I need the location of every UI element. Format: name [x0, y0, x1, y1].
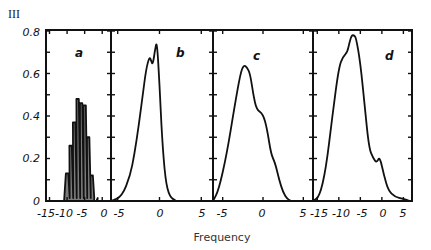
curve-a [64, 99, 98, 201]
curve-c [213, 66, 291, 201]
x-tick-c-n5: -5 [217, 207, 228, 220]
panel-label-a: a [75, 46, 83, 60]
figure-label: III [8, 7, 20, 21]
x-tick-d-n10: -10 [332, 207, 350, 220]
axis-ticks [46, 30, 412, 201]
panel-label-c: c [253, 49, 260, 63]
curve-b [111, 44, 176, 201]
panel-label-b: b [176, 46, 185, 60]
x-tick-b-n5: -5 [114, 207, 125, 220]
curve-d [313, 35, 410, 201]
x-axis-title: Frequency [194, 231, 251, 244]
x-tick-a-n10: -10 [55, 207, 73, 220]
figure: III 0 0.2 0.4 0.6 0.8 -15 -10 -5 0 -5 0 … [0, 0, 431, 250]
x-tick-a-0: 0 [101, 207, 108, 220]
y-tick-0.6: 0.6 [23, 68, 41, 81]
panel-label-d: d [385, 49, 394, 63]
x-tick-d-0: 0 [380, 207, 387, 220]
x-axis-labels: -15 -10 -5 0 -5 0 5 -5 0 5 -15 -10 -5 0 … [37, 207, 406, 220]
x-tick-b-0: 0 [157, 207, 164, 220]
x-tick-a-n5: -5 [77, 207, 88, 220]
y-tick-0.2: 0.2 [23, 152, 41, 165]
x-tick-d-5: 5 [400, 207, 407, 220]
x-tick-c-0: 0 [259, 207, 266, 220]
x-tick-d-n15: -15 [310, 207, 328, 220]
x-tick-c-5: 5 [300, 207, 307, 220]
x-tick-d-n5: -5 [357, 207, 368, 220]
y-axis-labels: 0 0.2 0.4 0.6 0.8 [23, 26, 41, 208]
y-tick-0.8: 0.8 [23, 26, 41, 39]
axes-frame [46, 30, 412, 201]
x-tick-a-n15: -15 [37, 207, 55, 220]
data-curves [64, 35, 410, 201]
y-tick-0.4: 0.4 [23, 110, 41, 123]
x-tick-b-5: 5 [199, 207, 206, 220]
